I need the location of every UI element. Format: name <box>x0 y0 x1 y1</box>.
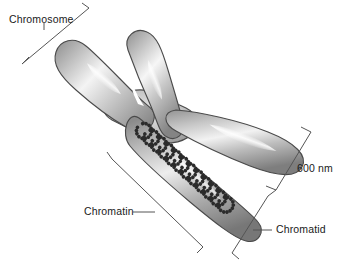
label-chromosome: Chromosome <box>9 13 74 25</box>
label-scale: 600 nm <box>297 162 333 174</box>
chromosome-illustration: Chromosome 600 nm Chromatin Chromatid <box>0 0 339 269</box>
label-chromatin: Chromatin <box>84 205 134 217</box>
label-chromatid: Chromatid <box>276 223 326 235</box>
chromosome-figure: Chromosome 600 nm Chromatin Chromatid <box>0 0 339 269</box>
